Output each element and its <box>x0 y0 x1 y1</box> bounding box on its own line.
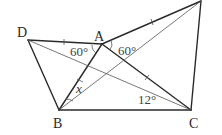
segment-CE <box>191 1 201 110</box>
angle-label-12: 12° <box>138 92 156 107</box>
label-B: B <box>53 116 62 131</box>
angle-label-right-60: 60° <box>118 43 136 58</box>
angle-label-x: x <box>75 81 82 96</box>
angle-arc-left-60 <box>92 45 96 53</box>
segment-DC <box>28 40 191 110</box>
angle-arc-right-60 <box>110 40 112 50</box>
angle-label-left-60: 60° <box>70 44 88 59</box>
geometry-diagram: D A B C 60° 60° 12° x <box>0 0 222 135</box>
label-C: C <box>189 116 198 131</box>
segment-DB <box>28 40 59 110</box>
label-D: D <box>17 25 27 40</box>
label-A: A <box>94 29 105 44</box>
segment-AE <box>102 1 201 44</box>
segment-DA <box>28 40 102 44</box>
angle-arc-x <box>66 99 73 101</box>
